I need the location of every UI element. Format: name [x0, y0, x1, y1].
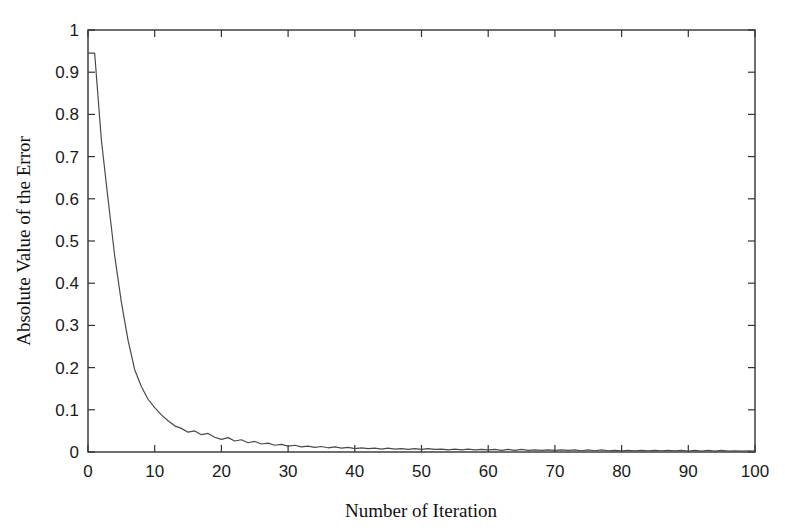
error-convergence-chart: 00.10.20.30.40.50.60.70.80.91 0102030405… — [0, 0, 785, 532]
x-tick-label: 90 — [679, 462, 698, 481]
x-tick-label: 60 — [479, 462, 498, 481]
x-axis-title: Number of Iteration — [345, 500, 497, 521]
y-tick-label: 0 — [70, 443, 79, 462]
x-tick-label: 50 — [412, 462, 431, 481]
y-tick-label: 0.6 — [55, 190, 79, 209]
x-tick-label: 100 — [741, 462, 769, 481]
y-tick-label: 1 — [70, 21, 79, 40]
x-tick-label: 10 — [145, 462, 164, 481]
y-tick-label: 0.5 — [55, 232, 79, 251]
x-tick-label: 70 — [545, 462, 564, 481]
y-tick-label: 0.9 — [55, 63, 79, 82]
y-axis-title: Absolute Value of the Error — [13, 136, 34, 346]
y-tick-label: 0.3 — [55, 316, 79, 335]
y-tick-label: 0.7 — [55, 148, 79, 167]
x-tick-label: 0 — [83, 462, 92, 481]
x-tick-label: 80 — [612, 462, 631, 481]
y-tick-label: 0.8 — [55, 105, 79, 124]
x-tick-label: 30 — [279, 462, 298, 481]
x-tick-label: 40 — [345, 462, 364, 481]
figure-container: 00.10.20.30.40.50.60.70.80.91 0102030405… — [0, 0, 785, 532]
x-tick-label: 20 — [212, 462, 231, 481]
y-tick-label: 0.1 — [55, 401, 79, 420]
y-tick-label: 0.4 — [55, 274, 79, 293]
y-tick-label: 0.2 — [55, 359, 79, 378]
